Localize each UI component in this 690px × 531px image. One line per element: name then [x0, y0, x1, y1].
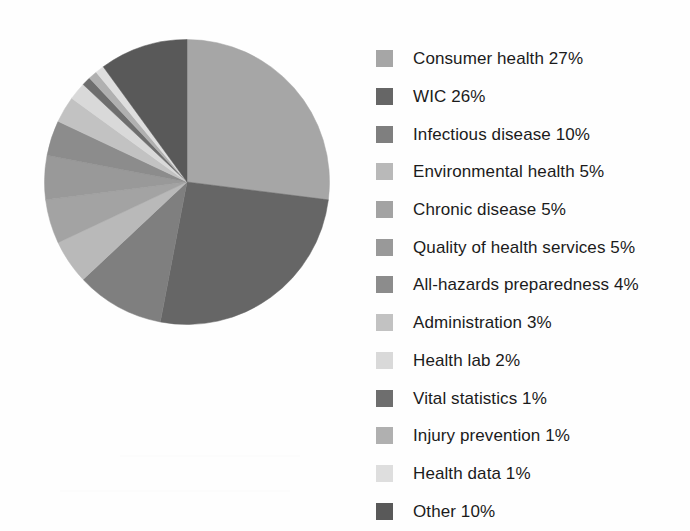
legend-item-label: Vital statistics 1% — [413, 389, 547, 408]
chart-legend: Consumer health 27%WIC 26%Infectious dis… — [376, 40, 682, 530]
legend-item-label: WIC 26% — [413, 87, 486, 106]
legend-item-label: Health data 1% — [413, 464, 531, 483]
pie-slice-group — [44, 40, 329, 325]
pie-slice — [160, 182, 328, 325]
legend-item: Quality of health services 5% — [376, 228, 682, 266]
legend-item-label: Chronic disease 5% — [413, 200, 566, 219]
pie-chart-page: Consumer health 27%WIC 26%Infectious dis… — [0, 0, 690, 531]
scan-artifact — [60, 490, 290, 492]
legend-item-label: Consumer health 27% — [413, 49, 583, 68]
legend-item-label: Administration 3% — [413, 313, 552, 332]
legend-item: Health lab 2% — [376, 342, 682, 380]
legend-swatch-icon — [376, 465, 393, 482]
legend-item-label: Quality of health services 5% — [413, 238, 635, 257]
legend-swatch-icon — [376, 126, 393, 143]
legend-item-label: Health lab 2% — [413, 351, 520, 370]
legend-swatch-icon — [376, 390, 393, 407]
legend-item: Vital statistics 1% — [376, 379, 682, 417]
legend-item: Other 10% — [376, 492, 682, 530]
legend-item: Environmental health 5% — [376, 153, 682, 191]
legend-item-label: Infectious disease 10% — [413, 125, 590, 144]
legend-item: WIC 26% — [376, 78, 682, 116]
pie-slice — [187, 40, 330, 200]
legend-item: Health data 1% — [376, 455, 682, 493]
legend-item-label: All-hazards preparedness 4% — [413, 275, 639, 294]
pie-svg — [44, 39, 330, 325]
legend-item: Chronic disease 5% — [376, 191, 682, 229]
legend-swatch-icon — [376, 352, 393, 369]
legend-item: Injury prevention 1% — [376, 417, 682, 455]
scan-artifact — [120, 455, 300, 457]
legend-swatch-icon — [376, 50, 393, 67]
legend-swatch-icon — [376, 163, 393, 180]
legend-swatch-icon — [376, 314, 393, 331]
legend-item: Consumer health 27% — [376, 40, 682, 78]
legend-swatch-icon — [376, 88, 393, 105]
pie-chart-graphic — [44, 39, 330, 325]
legend-item-label: Environmental health 5% — [413, 162, 604, 181]
legend-swatch-icon — [376, 201, 393, 218]
legend-swatch-icon — [376, 503, 393, 520]
legend-item-label: Other 10% — [413, 502, 495, 521]
legend-item: Infectious disease 10% — [376, 115, 682, 153]
legend-swatch-icon — [376, 427, 393, 444]
legend-item: Administration 3% — [376, 304, 682, 342]
legend-swatch-icon — [376, 239, 393, 256]
legend-swatch-icon — [376, 276, 393, 293]
legend-item: All-hazards preparedness 4% — [376, 266, 682, 304]
legend-item-label: Injury prevention 1% — [413, 426, 570, 445]
